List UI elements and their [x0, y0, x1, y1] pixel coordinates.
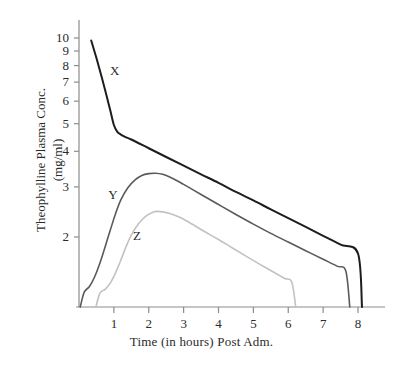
x-tick-label: 4: [209, 316, 229, 332]
y-tick-label: 4: [45, 143, 69, 159]
x-axis-title: Time (in hours) Post Adm.: [0, 334, 403, 350]
x-tick-label: 5: [243, 316, 263, 332]
y-tick-label: 6: [45, 93, 69, 109]
curve-label-y: Y: [108, 187, 117, 203]
x-tick-label: 1: [104, 316, 124, 332]
x-tick-label: 2: [139, 316, 159, 332]
x-tick-label: 6: [278, 316, 298, 332]
curve-label-x: X: [110, 63, 119, 79]
x-tick-label: 7: [313, 316, 333, 332]
curve-y: [80, 173, 350, 307]
y-tick-label: 2: [45, 229, 69, 245]
y-tick-label: 7: [45, 74, 69, 90]
x-tick-label: 8: [348, 316, 368, 332]
curve-z: [96, 211, 296, 307]
curve-x: [91, 41, 362, 308]
curve-label-z: Z: [133, 228, 141, 244]
y-tick-label: 5: [45, 116, 69, 132]
y-tick-label: 10: [45, 30, 69, 46]
chart-figure: Theophylline Plasma Conc. (mg/ml) Time (…: [0, 0, 403, 365]
x-tick-label: 3: [174, 316, 194, 332]
y-tick-label: 8: [45, 58, 69, 74]
y-tick-label: 3: [45, 179, 69, 195]
